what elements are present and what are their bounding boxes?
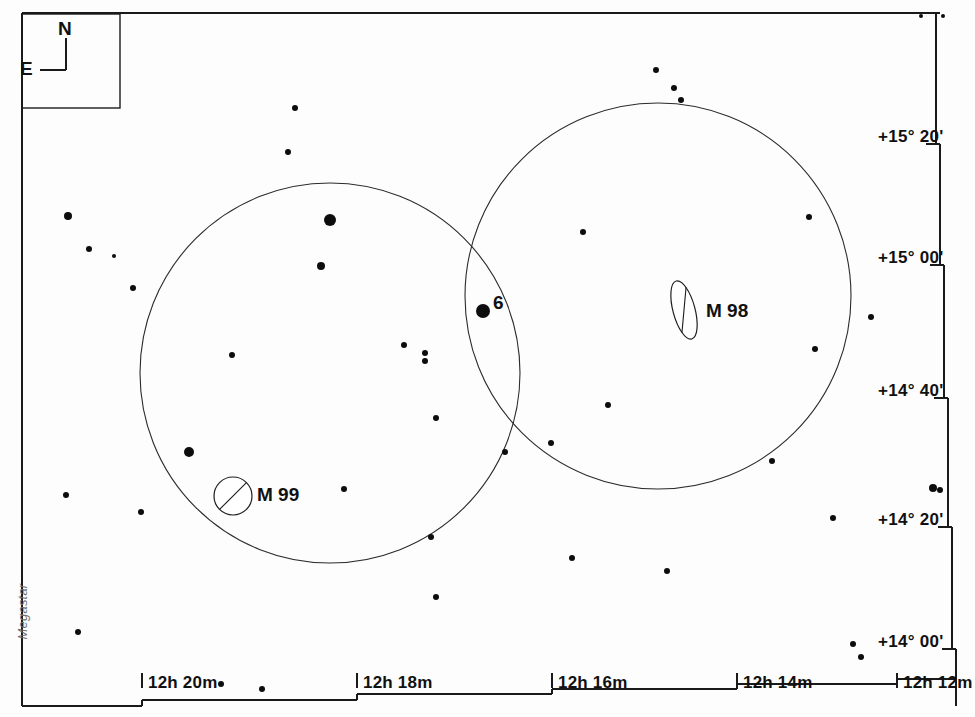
- star-label-6: 6: [493, 292, 504, 314]
- star-dot: [664, 568, 670, 574]
- star-dot: [422, 358, 428, 364]
- star-dot: [671, 85, 677, 91]
- star-dot: [317, 262, 325, 270]
- chart-frame: [22, 13, 956, 706]
- star-dot: [941, 14, 945, 18]
- right-ascension-label: 12h 14m: [743, 673, 812, 693]
- star-dot: [64, 212, 72, 220]
- dso-label-m-99: M 99: [257, 484, 299, 506]
- star-dot: [678, 97, 684, 103]
- star-dot: [218, 681, 224, 687]
- dso-symbol-m-98: [666, 278, 703, 342]
- star-dot: [422, 350, 428, 356]
- star-dot: [292, 105, 298, 111]
- star-field: [63, 14, 945, 692]
- right-ascension-label: 12h 12m: [903, 673, 972, 693]
- star-dot: [548, 440, 554, 446]
- eyepiece-field-left: [140, 183, 520, 563]
- star-dot: [929, 484, 937, 492]
- star-dot: [569, 555, 575, 561]
- right-ascension-label: 12h 20m: [148, 673, 217, 693]
- declination-label: +15° 00': [878, 248, 944, 268]
- declination-label: +14° 00': [878, 632, 944, 652]
- deep-sky-objects: [214, 278, 702, 515]
- star-dot: [285, 149, 291, 155]
- star-dot: [919, 14, 923, 18]
- star-dot: [401, 342, 407, 348]
- star-dot: [75, 629, 81, 635]
- star-dot: [830, 515, 836, 521]
- star-dot: [138, 509, 144, 515]
- compass-north-label: N: [58, 18, 72, 40]
- star-dot: [858, 654, 864, 660]
- declination-label: +15° 20': [878, 127, 944, 147]
- axis-tick-marks: [142, 144, 952, 688]
- star-dot: [502, 449, 508, 455]
- right-ascension-label: 12h 18m: [363, 673, 432, 693]
- star-dot: [433, 415, 439, 421]
- star-dot: [112, 254, 116, 258]
- star-dot: [428, 534, 434, 540]
- star-dot: [653, 67, 659, 73]
- megastar-watermark: Megastar: [15, 572, 30, 652]
- dso-label-m-98: M 98: [706, 300, 748, 322]
- declination-label: +14° 40': [878, 381, 944, 401]
- sky-plot-surface: [0, 0, 975, 717]
- star-dot: [850, 641, 856, 647]
- declination-label: +14° 20': [878, 510, 944, 530]
- star-dot: [433, 594, 439, 600]
- star-dot: [341, 486, 347, 492]
- right-ascension-label: 12h 16m: [558, 673, 627, 693]
- star-dot: [580, 229, 586, 235]
- eyepiece-field-right: [465, 103, 851, 489]
- labeled-star-dot: [476, 304, 490, 318]
- star-dot: [63, 492, 69, 498]
- star-dot: [86, 246, 92, 252]
- star-dot: [184, 447, 194, 457]
- star-dot: [324, 214, 336, 226]
- star-dot: [868, 314, 874, 320]
- star-dot: [812, 346, 818, 352]
- dso-symbol-m-99: [214, 477, 252, 515]
- compass-east-label: E: [20, 58, 33, 80]
- star-dot: [130, 285, 136, 291]
- star-dot: [806, 214, 812, 220]
- star-dot: [605, 402, 611, 408]
- star-dot: [937, 487, 943, 493]
- star-chart: Megastar N E +15° 20'+15° 00'+14° 40'+14…: [0, 0, 975, 717]
- star-dot: [259, 686, 265, 692]
- star-dot: [229, 352, 235, 358]
- star-dot: [769, 458, 775, 464]
